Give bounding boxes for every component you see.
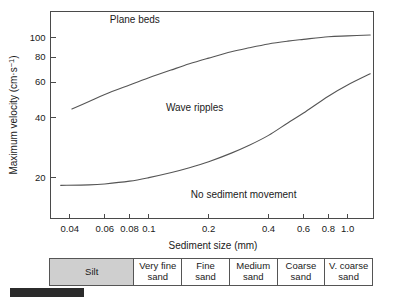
grain-cell-very-fine-sand: Very finesand	[134, 259, 182, 285]
y-tick-label: 80	[35, 51, 46, 62]
x-tick-label: 1.0	[341, 223, 354, 234]
grain-cell-coarse-sand: Coarsesand	[278, 259, 326, 285]
grain-size-scale: SiltVery finesandFinesandMediumsandCoars…	[49, 258, 373, 286]
y-tick-label: 40	[35, 112, 46, 123]
y-tick-label: 60	[35, 76, 46, 87]
caption-bar	[10, 288, 84, 297]
y-axis-ticks	[51, 38, 56, 178]
grain-cell-fine-sand: Finesand	[182, 259, 230, 285]
x-axis-ticks	[70, 214, 348, 219]
y-tick-label: 20	[35, 172, 46, 183]
figure-root: 20406080100 0.040.060.080.10.20.40.60.81…	[0, 0, 393, 298]
x-tick-label: 0.2	[202, 223, 215, 234]
grain-cell-v-coarse-sand: V. coarsesand	[325, 259, 372, 285]
x-tick-label: 0.06	[96, 223, 115, 234]
chart-area: 20406080100 0.040.060.080.10.20.40.60.81…	[0, 0, 393, 252]
region-label-wave-ripples: Wave ripples	[166, 102, 223, 113]
grain-cell-medium-sand: Mediumsand	[230, 259, 278, 285]
x-tick-label: 0.04	[61, 223, 80, 234]
x-tick-label: 0.8	[322, 223, 335, 234]
axis-frame	[51, 12, 374, 219]
y-axis-title: Maximum velocity (cm·s−1)	[7, 55, 19, 174]
plot-frame	[51, 12, 374, 219]
sediment-velocity-chart: 20406080100 0.040.060.080.10.20.40.60.81…	[0, 0, 393, 252]
grain-cell-silt: Silt	[50, 259, 134, 285]
x-axis-tick-labels: 0.040.060.080.10.20.40.60.81.0	[61, 223, 355, 234]
x-tick-label: 0.08	[120, 223, 139, 234]
no-movement-boundary-curve	[61, 74, 371, 186]
x-tick-label: 0.6	[297, 223, 310, 234]
x-tick-label: 0.1	[142, 223, 155, 234]
x-tick-label: 0.4	[262, 223, 275, 234]
region-label-plane-beds: Plane beds	[110, 14, 160, 25]
caption-text	[92, 287, 387, 297]
region-label-no-sediment-movement: No sediment movement	[191, 189, 297, 200]
x-axis-title: Sediment size (mm)	[169, 240, 258, 251]
y-tick-label: 100	[30, 32, 46, 43]
region-labels: Plane bedsWave ripplesNo sediment moveme…	[110, 14, 297, 200]
y-axis-tick-labels: 20406080100	[30, 32, 46, 183]
